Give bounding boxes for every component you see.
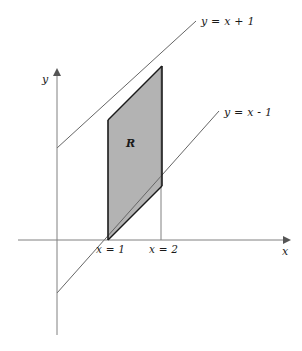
boundary-label-x-equals-1: x = 1	[96, 243, 125, 255]
math-diagram-figure: y = x + 1 y = x - 1 x = 1 x = 2 R y x	[0, 0, 302, 351]
diagram-canvas	[0, 0, 302, 351]
x-axis-arrowhead-icon	[283, 236, 291, 244]
boundary-label-x-equals-2: x = 2	[149, 243, 178, 255]
x-axis-label: x	[282, 245, 288, 258]
line-label-y-equals-x-plus-1: y = x + 1	[201, 15, 255, 28]
line-label-y-equals-x-minus-1: y = x - 1	[224, 106, 272, 119]
y-axis-arrowhead-icon	[53, 68, 61, 76]
y-axis-label: y	[42, 73, 48, 86]
region-label-R: R	[126, 137, 135, 150]
